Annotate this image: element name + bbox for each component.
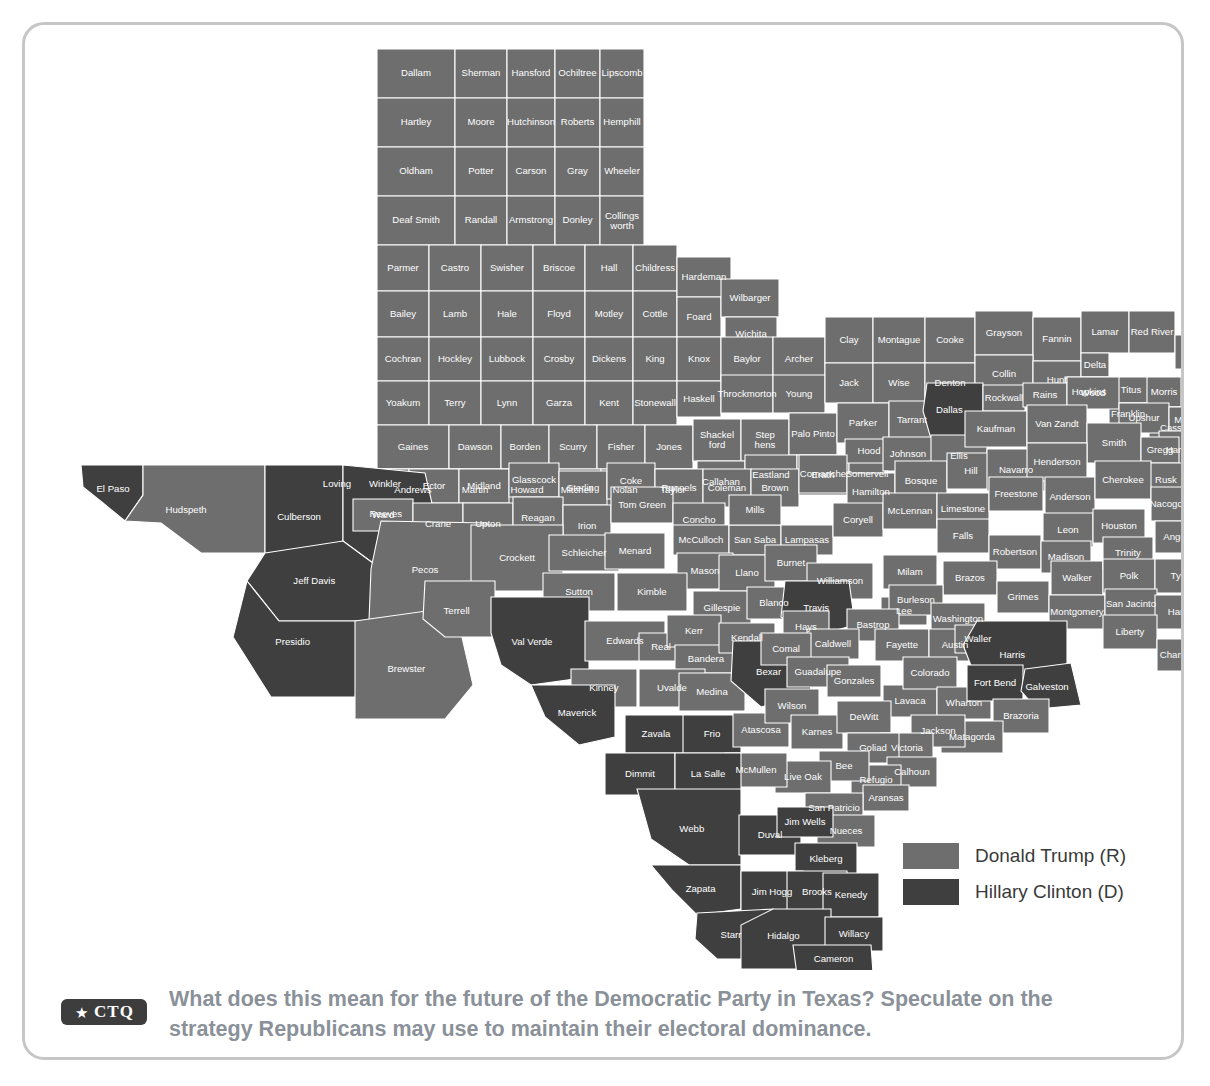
county-label: Williamson	[817, 575, 863, 586]
ctq-badge: ★ CTQ	[61, 999, 147, 1025]
texas-county-map[interactable]: DallamShermanHansfordOchiltreeLipscombHa…	[25, 25, 1181, 970]
county-label: Jeff Davis	[293, 575, 335, 586]
county-label: Brewster	[387, 663, 426, 674]
county-label: Collin	[992, 368, 1016, 379]
county-label: Van Zandt	[1035, 418, 1079, 429]
county-label: Wharton	[946, 697, 982, 708]
county-label: Walker	[1062, 572, 1092, 583]
county-label: Rains	[1033, 389, 1058, 400]
county-label: Dawson	[458, 441, 493, 452]
county-label: Washington	[933, 613, 983, 624]
county-label: Ochiltree	[558, 67, 596, 78]
county-label: Nueces	[830, 825, 863, 836]
county-label: Hood	[858, 445, 881, 456]
county-label: DeWitt	[850, 711, 879, 722]
legend-label-clinton: Hillary Clinton (D)	[975, 881, 1124, 903]
county-label: Jones	[656, 441, 682, 452]
county-label: Falls	[953, 530, 973, 541]
county-label: McCulloch	[679, 534, 724, 545]
county-label: Refugio	[859, 774, 892, 785]
county-label: Lynn	[497, 397, 517, 408]
county-label: Leon	[1057, 524, 1078, 535]
county-label: Castro	[441, 262, 469, 273]
county-label: Fayette	[886, 639, 918, 650]
county-label: Carson	[516, 165, 547, 176]
county-label: Ward	[372, 509, 395, 520]
county-label: Jackson	[920, 725, 955, 736]
county-label: Starr	[721, 929, 743, 940]
county-label: Somervell	[846, 468, 889, 479]
county-label: Ellis	[950, 450, 968, 461]
county-label: Hutchinson	[507, 116, 555, 127]
county-label: Donley	[563, 214, 593, 225]
county-label: Terry	[444, 397, 466, 408]
county-label: Johnson	[890, 448, 926, 459]
county-label: Karnes	[802, 726, 833, 737]
county-label: Hudspeth	[166, 504, 207, 515]
county-label: Gray	[567, 165, 588, 176]
county-label: Midland	[467, 480, 501, 491]
county-label: Dallam	[401, 67, 431, 78]
legend-swatch-trump	[903, 843, 959, 869]
footer-prompt-bar: ★ CTQ What does this mean for the future…	[53, 985, 1163, 1044]
county-label: Wilbarger	[729, 292, 771, 303]
county-label: Gaines	[398, 441, 429, 452]
county-label: Pecos	[412, 564, 439, 575]
county-label: San Patricio	[808, 802, 860, 813]
county-label: Clay	[839, 334, 858, 345]
county-label: Wise	[888, 377, 909, 388]
county-label: El Paso	[96, 483, 129, 494]
county-label: Sherman	[462, 67, 501, 78]
county-label: Briscoe	[543, 262, 575, 273]
county-label: Cochran	[385, 353, 421, 364]
county-label: Val Verde	[512, 636, 553, 647]
county-label: Hale	[497, 308, 517, 319]
county-label: Gregg	[1147, 444, 1174, 455]
county-label: Hays	[795, 621, 817, 632]
county-label: Aransas	[868, 792, 903, 803]
county-label: Mason	[691, 565, 720, 576]
county-label: Hockley	[438, 353, 472, 364]
county-label: Tarrant	[897, 414, 927, 425]
county-label: Young	[786, 388, 813, 399]
county-label: Tom Green	[618, 499, 665, 510]
county-label: Jim Hogg	[752, 886, 793, 897]
texas-map-svg[interactable]: DallamShermanHansfordOchiltreeLipscombHa…	[25, 25, 1181, 970]
county-label: Garza	[546, 397, 573, 408]
county-label: Fannin	[1042, 333, 1071, 344]
county-label: Kerr	[685, 625, 704, 636]
county-label: Howard	[510, 484, 543, 495]
county-label: Marion	[1174, 414, 1181, 425]
county-label: Menard	[619, 545, 652, 556]
county-label: Baylor	[733, 353, 761, 364]
county-bowie[interactable]	[1175, 335, 1181, 369]
county-label: Stonewall	[634, 397, 676, 408]
county-label: Real	[651, 641, 671, 652]
county-label: Robertson	[993, 546, 1037, 557]
county-label: Smith	[1102, 437, 1127, 448]
county-label: Colorado	[911, 667, 950, 678]
county-label: Reagan	[521, 512, 555, 523]
county-label: Burnet	[777, 557, 806, 568]
county-label: Kimble	[637, 586, 666, 597]
county-label: Chambers	[1160, 649, 1181, 660]
county-label: Brazoria	[1003, 710, 1039, 721]
county-label: Cherokee	[1102, 474, 1144, 485]
county-label: Archer	[785, 353, 814, 364]
prompt-text: What does this mean for the future of th…	[169, 985, 1134, 1044]
county-label: Navarro	[999, 464, 1033, 475]
county-label: Bastrop	[856, 619, 889, 630]
county-label: Moore	[467, 116, 494, 127]
county-label: Brazos	[955, 572, 985, 583]
county-label: Bailey	[390, 308, 416, 319]
legend-item-clinton: Hillary Clinton (D)	[903, 879, 1143, 905]
county-label: Henderson	[1034, 456, 1081, 467]
county-label: Calhoun	[894, 766, 930, 777]
county-label: Dallas	[936, 404, 963, 415]
county-label: Jim Wells	[785, 816, 826, 827]
county-label: Brooks	[802, 886, 832, 897]
county-label: Irion	[578, 520, 597, 531]
county-label: Burleson	[897, 594, 935, 605]
county-label: Runnels	[661, 482, 696, 493]
county-label: Crockett	[499, 552, 535, 563]
